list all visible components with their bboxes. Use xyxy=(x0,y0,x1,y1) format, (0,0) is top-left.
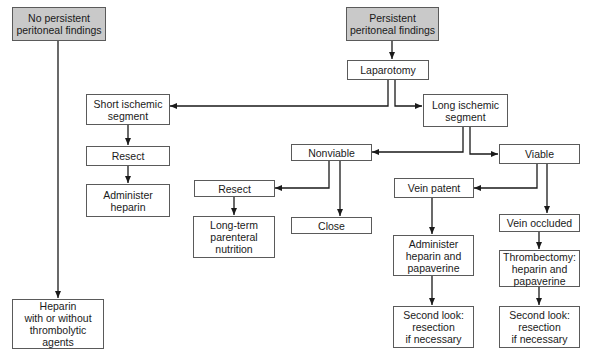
node-text: heparin and xyxy=(406,250,461,262)
node-text: Laparotomy xyxy=(360,64,415,76)
node-text: Second look: xyxy=(403,309,464,321)
node-text: Close xyxy=(318,220,345,232)
node-text: peritoneal findings xyxy=(350,24,435,36)
node-text: agents xyxy=(42,336,74,348)
node-laparotomy: Laparotomy xyxy=(347,60,429,80)
node-text: thrombolytic xyxy=(30,324,87,336)
node-heparin-thrombolytic: Heparin with or without thrombolytic age… xyxy=(12,299,104,349)
node-text: resection xyxy=(518,321,561,333)
node-resect-nonviable: Resect xyxy=(194,180,275,197)
node-text: heparin and xyxy=(512,263,567,275)
node-text: segment xyxy=(445,111,485,123)
node-text: Long ischemic xyxy=(432,99,499,111)
node-text: Persistent xyxy=(369,12,416,24)
node-text: nutrition xyxy=(215,243,252,255)
node-thrombectomy: Thrombectomy: heparin and papaverine xyxy=(499,250,580,287)
node-text: if necessary xyxy=(405,333,461,345)
flowchart: No persistent peritoneal findings Persis… xyxy=(0,0,591,363)
node-resect-short: Resect xyxy=(86,146,170,166)
node-text: Second look: xyxy=(509,309,570,321)
node-text: Resect xyxy=(112,150,145,162)
node-text: resection xyxy=(412,321,455,333)
node-text: Viable xyxy=(525,148,554,160)
node-vein-occluded: Vein occluded xyxy=(499,214,580,232)
node-text: parenteral xyxy=(210,231,257,243)
node-second-look-occluded: Second look: resection if necessary xyxy=(499,306,580,348)
node-text: peritoneal findings xyxy=(16,24,101,36)
node-text: Thrombectomy: xyxy=(503,251,576,263)
node-close: Close xyxy=(291,217,372,234)
node-no-persistent-findings: No persistent peritoneal findings xyxy=(12,7,106,41)
node-persistent-findings: Persistent peritoneal findings xyxy=(346,7,439,41)
node-text: No persistent xyxy=(28,12,90,24)
node-vein-patent: Vein patent xyxy=(394,178,474,198)
node-text: Vein patent xyxy=(408,182,461,194)
node-administer-heparin-papaverine: Administer heparin and papaverine xyxy=(393,235,474,276)
node-text: Heparin xyxy=(40,300,77,312)
node-text: Administer xyxy=(409,238,459,250)
node-text: heparin xyxy=(110,201,145,213)
node-text: with or without xyxy=(24,312,91,324)
node-administer-heparin: Administer heparin xyxy=(86,184,170,217)
node-nonviable: Nonviable xyxy=(291,144,372,161)
node-short-ischemic-segment: Short ischemic segment xyxy=(86,94,170,125)
node-text: segment xyxy=(108,110,148,122)
node-second-look-patent: Second look: resection if necessary xyxy=(393,306,474,348)
node-text: if necessary xyxy=(511,333,567,345)
node-long-term-parenteral-nutrition: Long-term parenteral nutrition xyxy=(193,216,275,258)
node-long-ischemic-segment: Long ischemic segment xyxy=(423,94,508,127)
node-text: Short ischemic xyxy=(94,98,163,110)
node-text: Long-term xyxy=(210,219,258,231)
node-text: Nonviable xyxy=(308,147,355,159)
node-text: Administer xyxy=(103,189,153,201)
node-text: Resect xyxy=(218,183,251,195)
node-text: papaverine xyxy=(408,262,460,274)
node-text: Vein occluded xyxy=(507,217,572,229)
node-viable: Viable xyxy=(499,144,580,164)
node-text: papaverine xyxy=(514,275,566,287)
